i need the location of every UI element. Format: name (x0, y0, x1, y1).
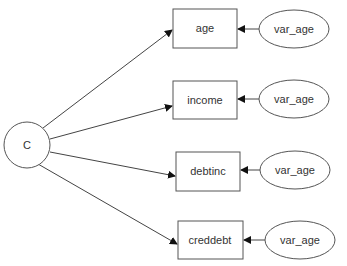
error-node-label: var_age (274, 23, 314, 35)
path-diagram: C age income debtinc creddebt var_age va… (0, 0, 347, 266)
latent-node-c[interactable]: C (4, 122, 50, 168)
edge-c-to-income (50, 106, 172, 139)
observed-node-label: debtinc (190, 165, 226, 177)
error-node-label: var_age (280, 234, 320, 246)
error-node-var-age-1[interactable]: var_age (259, 10, 329, 48)
observed-node-creddebt[interactable]: creddebt (178, 221, 243, 259)
observed-node-age[interactable]: age (173, 9, 237, 48)
observed-node-label: age (196, 22, 214, 34)
edge-c-to-creddebt (38, 164, 177, 244)
observed-node-income[interactable]: income (173, 81, 237, 119)
error-node-var-age-3[interactable]: var_age (260, 151, 330, 189)
error-node-var-age-2[interactable]: var_age (259, 80, 329, 118)
edge-c-to-debtinc (50, 152, 175, 176)
error-node-label: var_age (274, 93, 314, 105)
observed-node-label: income (187, 94, 222, 106)
error-node-var-age-4[interactable]: var_age (265, 221, 335, 259)
observed-node-debtinc[interactable]: debtinc (176, 152, 240, 191)
error-node-label: var_age (275, 164, 315, 176)
edge-c-to-age (43, 30, 172, 128)
observed-node-label: creddebt (189, 234, 232, 246)
latent-node-label: C (23, 139, 31, 151)
